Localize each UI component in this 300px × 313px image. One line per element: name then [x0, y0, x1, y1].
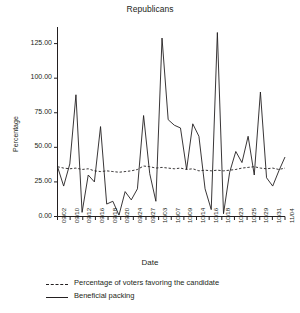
x-tick-label: 09/02	[60, 208, 67, 223]
x-tick-label: 10/03	[161, 208, 168, 223]
legend-swatch-solid-icon	[46, 297, 68, 298]
series-line-voters	[58, 166, 286, 172]
x-tick-label: 10/25	[250, 208, 257, 223]
x-tick-label: 09/20	[123, 208, 130, 223]
x-tick-label: 09/16	[98, 208, 105, 223]
legend-swatch-dashed-icon	[46, 284, 68, 285]
x-tick-label: 10/09	[186, 208, 193, 223]
chart-container: Republicans Percentage 0.0025.0050.0075.…	[0, 0, 300, 313]
x-tick-label: 11/04	[288, 208, 295, 223]
x-tick-label: 09/24	[136, 208, 143, 223]
x-tick-label: 10/07	[174, 208, 181, 223]
x-tick-label: 09/10	[73, 208, 80, 223]
y-tick-label: 75.00	[4, 108, 52, 115]
x-tick-label: 10/29	[262, 208, 269, 223]
axes-group	[54, 27, 285, 220]
x-tick-label: 10/14	[199, 208, 206, 223]
legend-label-voters: Percentage of voters favoring the candid…	[74, 278, 219, 287]
x-tick-label: 09/12	[85, 208, 92, 223]
series-group	[58, 33, 286, 216]
x-tick-label: 10/23	[237, 208, 244, 223]
chart-legend: Percentage of voters favoring the candid…	[0, 278, 300, 304]
series-line-packing	[58, 33, 286, 216]
x-tick-label: 09/18	[111, 208, 118, 223]
x-tick-label: 10/16	[212, 208, 219, 223]
x-tick-label: 09/27	[149, 208, 156, 223]
y-tick-label: 125.00	[4, 39, 52, 46]
x-axis-title: Date	[0, 258, 300, 267]
y-tick-label: 100.00	[4, 73, 52, 80]
y-tick-label: 0.00	[4, 212, 52, 219]
legend-item-packing: Beneficial packing	[0, 291, 300, 304]
y-tick-label: 50.00	[4, 142, 52, 149]
legend-label-packing: Beneficial packing	[74, 291, 134, 300]
x-tick-label: 10/31	[275, 208, 282, 223]
x-tick-label: 10/18	[224, 208, 231, 223]
legend-item-voters: Percentage of voters favoring the candid…	[0, 278, 300, 291]
y-tick-label: 25.00	[4, 177, 52, 184]
